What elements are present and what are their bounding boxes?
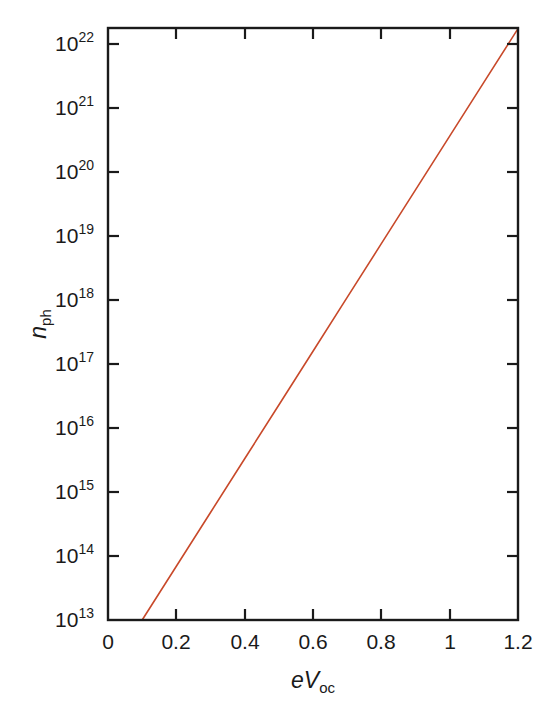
semilog-plot: 1022102110201019101810171016101510141013… — [0, 0, 545, 706]
y-tick-label-1e18: 1018 — [55, 285, 94, 311]
x-tick-label-0.2: 0.2 — [161, 630, 190, 653]
y-tick-label-1e19: 1019 — [55, 221, 94, 247]
y-axis-title: nph — [25, 309, 54, 338]
plot-area-background — [108, 28, 518, 620]
y-tick-label-1e21: 1021 — [55, 93, 94, 119]
x-tick-label-0.8: 0.8 — [366, 630, 395, 653]
y-axis-tick-labels: 1022102110201019101810171016101510141013 — [55, 29, 94, 631]
x-tick-label-0.6: 0.6 — [298, 630, 327, 653]
x-tick-label-1.2: 1.2 — [503, 630, 532, 653]
y-tick-label-1e13: 1013 — [55, 605, 94, 631]
y-tick-label-1e17: 1017 — [55, 349, 94, 375]
y-tick-label-1e16: 1016 — [55, 413, 94, 439]
y-tick-label-1e15: 1015 — [55, 477, 94, 503]
x-axis-title: eVoc — [291, 667, 335, 696]
y-tick-label-1e22: 1022 — [55, 29, 94, 55]
y-tick-label-1e14: 1014 — [55, 541, 94, 567]
y-tick-label-1e20: 1020 — [55, 157, 94, 183]
chart-figure: 1022102110201019101810171016101510141013… — [0, 0, 545, 706]
x-tick-label-0: 0 — [102, 630, 114, 653]
x-axis-tick-labels: 00.20.40.60.811.2 — [102, 630, 532, 653]
svg-text:eVoc: eVoc — [291, 667, 335, 696]
x-tick-label-1: 1 — [444, 630, 456, 653]
svg-text:nph: nph — [25, 309, 54, 338]
x-tick-label-0.4: 0.4 — [230, 630, 260, 653]
